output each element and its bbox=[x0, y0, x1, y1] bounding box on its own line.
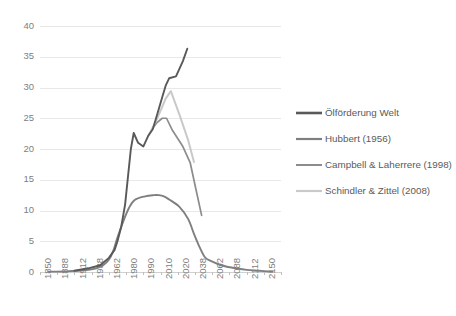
legend-label: Campbell & Laherrere (1998) bbox=[325, 159, 452, 170]
x-axis-tick-label: 2150 bbox=[266, 258, 277, 279]
legend-label: Hubbert (1956) bbox=[325, 133, 391, 144]
x-axis-tick-label: 1990 bbox=[145, 258, 156, 279]
y-axis-tick-label: 30 bbox=[23, 81, 34, 92]
x-axis-tick-label: 2010 bbox=[163, 258, 174, 279]
x-axis-tick-label: 1888 bbox=[59, 258, 70, 279]
x-axis-tick-label: 2112 bbox=[249, 259, 260, 279]
legend-label: Ölförderung Welt bbox=[325, 107, 399, 118]
x-axis-tick-label: 2038 bbox=[197, 258, 208, 279]
y-axis-tick-label: 40 bbox=[23, 20, 34, 31]
series-line bbox=[74, 49, 187, 271]
legend-group: Ölförderung WeltHubbert (1956)Campbell &… bbox=[296, 107, 452, 196]
y-axis-labels-group: 0510152025303540 bbox=[23, 20, 34, 277]
x-axis-tick-label: 2020 bbox=[180, 258, 191, 279]
x-axis-tick-label: 1962 bbox=[111, 258, 122, 279]
y-axis-tick-label: 35 bbox=[23, 50, 34, 61]
series-line bbox=[152, 118, 202, 215]
y-axis-tick-label: 10 bbox=[23, 204, 34, 215]
chart-container: 0510152025303540 18501888191219381962198… bbox=[0, 0, 456, 316]
x-axis-tick-label: 1980 bbox=[128, 258, 139, 279]
x-axis-tick-label: 1850 bbox=[42, 258, 53, 279]
y-axis-tick-label: 20 bbox=[23, 143, 34, 154]
y-axis-tick-label: 15 bbox=[23, 173, 34, 184]
gridlines-group bbox=[40, 27, 281, 273]
x-axis-tick-label: 2062 bbox=[214, 258, 225, 279]
series-group bbox=[49, 49, 273, 272]
y-axis-tick-label: 5 bbox=[29, 235, 34, 246]
y-axis-tick-label: 25 bbox=[23, 112, 34, 123]
legend-label: Schindler & Zittel (2008) bbox=[325, 185, 430, 196]
y-axis-tick-label: 0 bbox=[29, 266, 34, 277]
oil-production-line-chart: 0510152025303540 18501888191219381962198… bbox=[0, 0, 456, 316]
